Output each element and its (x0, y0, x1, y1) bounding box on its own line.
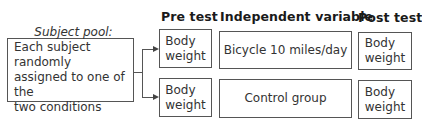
post-test-box-1: Body weight (358, 32, 412, 70)
pre-test-box-1: Body weight (159, 29, 212, 68)
subject-pool-line: Each subject randomly (14, 40, 133, 70)
subject-pool-text: Subject pool: Each subject randomly assi… (14, 25, 133, 115)
subject-pool-line: assigned to one of the (14, 70, 133, 100)
post-test-box-2: Body weight (358, 80, 412, 119)
condition-label: Control group (244, 91, 326, 106)
subject-pool-line: two conditions (14, 100, 133, 115)
post-test-label: Body (365, 85, 405, 100)
header-independent-variable: Independent variable (220, 9, 373, 24)
pre-test-label: Body (165, 34, 205, 49)
subject-pool-box: Subject pool: Each subject randomly assi… (7, 38, 134, 102)
header-pre-test: Pre test (161, 9, 218, 24)
pre-test-label: weight (165, 98, 205, 113)
post-test-label: Body (365, 36, 405, 51)
condition-box-bicycle: Bicycle 10 miles/day (219, 31, 352, 69)
pre-test-label: Body (165, 83, 205, 98)
condition-label: Bicycle 10 miles/day (224, 43, 348, 58)
post-test-label: weight (365, 51, 405, 66)
condition-box-control: Control group (219, 79, 352, 118)
pre-test-box-2: Body weight (159, 78, 212, 117)
subject-pool-title: Subject pool: (14, 25, 133, 40)
post-test-label: weight (365, 100, 405, 115)
header-post-test: Post test (358, 10, 422, 25)
pre-test-label: weight (165, 49, 205, 64)
connector-vertical (142, 49, 143, 98)
